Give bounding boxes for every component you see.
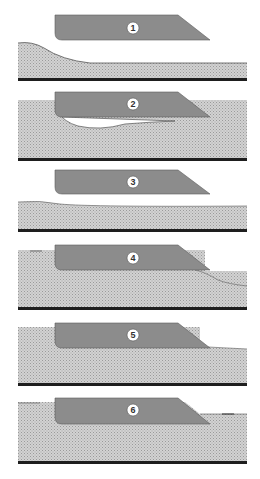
panel-1: 1	[18, 15, 247, 81]
svg-text:2: 2	[130, 99, 135, 109]
svg-text:6: 6	[130, 405, 135, 415]
panel-5: 5	[18, 320, 248, 386]
panel-3: 3	[18, 170, 247, 232]
svg-text:1: 1	[130, 23, 135, 33]
stage-label-6: 6	[127, 404, 139, 416]
stage-label-1: 1	[127, 22, 139, 34]
panel-4: 4	[18, 245, 248, 310]
stage-label-4: 4	[127, 252, 139, 264]
base-layer	[18, 383, 247, 386]
stage-label-5: 5	[127, 329, 139, 341]
base-layer	[18, 461, 247, 464]
base-layer	[18, 158, 247, 161]
svg-text:3: 3	[130, 177, 135, 187]
sediment-layer	[18, 201, 247, 230]
stage-label-3: 3	[127, 176, 139, 188]
svg-text:4: 4	[130, 253, 135, 263]
base-layer	[18, 307, 247, 310]
upper-clearance	[205, 249, 248, 271]
panel-2: 2	[18, 92, 247, 161]
stage-diagram: 1 2 3 4	[0, 0, 260, 479]
upper-clearance	[200, 320, 248, 347]
panel-6: 6	[18, 398, 248, 464]
base-layer	[18, 229, 247, 232]
stage-label-2: 2	[127, 98, 139, 110]
svg-text:5: 5	[130, 330, 135, 340]
sediment-layer	[18, 43, 247, 78]
base-layer	[18, 78, 247, 81]
